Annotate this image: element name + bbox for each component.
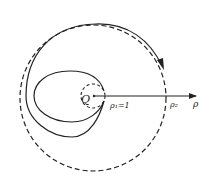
center-label: Q: [81, 93, 90, 106]
trajectory-diagram: Q ρ₁=1 ρ₂ ρ: [0, 0, 211, 187]
inner-radius-label: ρ₁=1: [109, 101, 130, 110]
center-point: [93, 95, 95, 97]
axis-label: ρ: [192, 99, 199, 109]
spiral-direction-arrow-icon: [157, 58, 164, 70]
outer-spiral-curve: [26, 24, 162, 137]
outer-radius-label: ρ₂: [169, 100, 178, 109]
